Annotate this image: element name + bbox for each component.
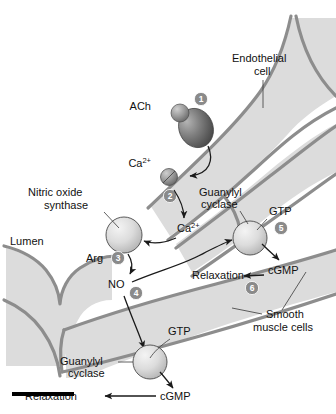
step-6-label: 6 <box>250 283 255 293</box>
gtp-upper-label: GTP <box>269 205 292 217</box>
cgmp-upper-label: cGMP <box>268 264 299 276</box>
nitric-oxide-synthase-label-line2: synthase <box>44 199 88 211</box>
ach-label: ACh <box>130 100 151 112</box>
endothelial-cell-label-line2: cell <box>254 65 271 77</box>
nos-to-no-arrow <box>128 254 132 274</box>
cgmp-lower-label: cGMP <box>160 390 191 402</box>
lumen-label: Lumen <box>10 235 44 247</box>
upper-cyclase-to-cgmp-arrow <box>262 244 279 260</box>
lower-cyclase-to-cgmp-arrow <box>160 372 173 388</box>
guanylyl-cyclase-upper-label-line1: Guanylyl <box>199 186 242 198</box>
nitric-oxide-synthase-label-line1: Nitric oxide <box>28 186 82 198</box>
step-5-badge: 5 <box>274 221 287 234</box>
calcium-channel <box>161 169 178 186</box>
step-2-label: 2 <box>168 191 173 201</box>
ach-ligand-sphere <box>171 104 189 122</box>
gtp-lower-label: GTP <box>168 325 191 337</box>
step-1-badge: 1 <box>194 92 207 105</box>
step-4-badge: 4 <box>129 286 142 299</box>
relaxation-upper-label: Relaxation <box>192 269 244 281</box>
step-5-label: 5 <box>279 223 284 233</box>
arginine-label: Arg <box>86 252 103 264</box>
step-4-label: 4 <box>134 288 139 298</box>
nitric-oxide-synthase-enzyme <box>106 217 142 253</box>
smooth-muscle-cells-label-line1: Smooth <box>266 308 304 320</box>
step-3-badge: 3 <box>111 251 124 264</box>
figure-root: ACh 1 Ca2+ 2 Ca2+ Nitric oxide synthase … <box>0 0 336 414</box>
step-3-label: 3 <box>116 253 121 263</box>
guanylyl-cyclase-lower-label-line2: cyclase <box>68 367 105 379</box>
calcium-outside-label: Ca2+ <box>128 156 151 169</box>
endothelial-cell-label-line1: Endothelial <box>232 52 286 64</box>
no-signaling-diagram: ACh 1 Ca2+ 2 Ca2+ Nitric oxide synthase … <box>0 0 336 414</box>
step-1-label: 1 <box>199 94 204 104</box>
guanylyl-cyclase-lower-label-line1: Guanylyl <box>60 355 103 367</box>
smooth-muscle-cells-label-line2: muscle cells <box>253 321 313 333</box>
scale-bar <box>12 392 74 396</box>
guanylyl-cyclase-upper-enzyme <box>233 221 267 255</box>
guanylyl-cyclase-upper-label-line2: cyclase <box>201 198 238 210</box>
nitric-oxide-label: NO <box>108 278 125 290</box>
step-6-badge: 6 <box>245 281 258 294</box>
